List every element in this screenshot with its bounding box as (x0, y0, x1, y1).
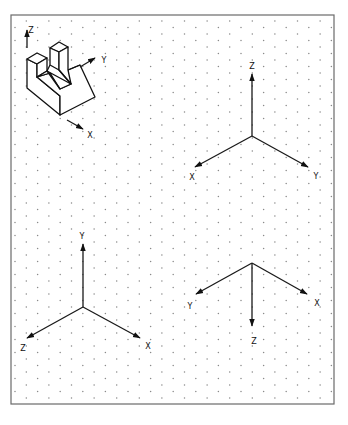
grid-dot (263, 196, 265, 198)
grid-dot (48, 150, 50, 152)
grid-dot (37, 274, 39, 276)
grid-dot (308, 352, 310, 354)
grid-dot (206, 228, 208, 230)
grid-dot (14, 183, 16, 185)
grid-dot (308, 365, 310, 367)
grid-dot (297, 293, 299, 295)
grid-dot (195, 274, 197, 276)
grid-dot (172, 261, 174, 263)
grid-dot (240, 196, 242, 198)
grid-dot (48, 384, 50, 386)
grid-dot (308, 131, 310, 133)
grid-dot (308, 378, 310, 380)
grid-dot (105, 40, 107, 42)
grid-dot (172, 300, 174, 302)
grid-dot (71, 371, 73, 373)
grid-dot (308, 144, 310, 146)
grid-dot (14, 66, 16, 68)
grid-dot (161, 306, 163, 308)
grid-dot (93, 345, 95, 347)
grid-dot (195, 66, 197, 68)
grid-dot (116, 384, 118, 386)
grid-dot (116, 202, 118, 204)
grid-dot (274, 46, 276, 48)
grid-dot (26, 163, 28, 165)
grid-dot (59, 222, 61, 224)
grid-dot (184, 228, 186, 230)
grid-dot (127, 157, 129, 159)
grid-dot (297, 111, 299, 113)
grid-dot (240, 183, 242, 185)
grid-dot (48, 33, 50, 35)
grid-dot (37, 170, 39, 172)
grid-dot (263, 248, 265, 250)
grid-dot (285, 391, 287, 393)
grid-dot (14, 157, 16, 159)
grid-dot (48, 280, 50, 282)
grid-dot (206, 85, 208, 87)
grid-dot (37, 391, 39, 393)
grid-dot (274, 293, 276, 295)
grid-dot (150, 131, 152, 133)
grid-dot (274, 189, 276, 191)
grid-dot (218, 144, 220, 146)
grid-dot (274, 345, 276, 347)
grid-dot (206, 332, 208, 334)
grid-dot (14, 196, 16, 198)
grid-dot (184, 111, 186, 113)
grid-dot (93, 228, 95, 230)
grid-dot (127, 352, 129, 354)
grid-dot (71, 215, 73, 217)
grid-dot (172, 339, 174, 341)
grid-dot (274, 306, 276, 308)
grid-dot (48, 267, 50, 269)
grid-dot (93, 189, 95, 191)
grid-dot (172, 326, 174, 328)
grid-dot (297, 150, 299, 152)
grid-dot (274, 228, 276, 230)
grid-dot (319, 202, 321, 204)
grid-dot (82, 365, 84, 367)
grid-dot (139, 163, 141, 165)
grid-dot (161, 215, 163, 217)
grid-dot (127, 105, 129, 107)
grid-dot (206, 293, 208, 295)
grid-dot (274, 215, 276, 217)
grid-dot (37, 27, 39, 29)
grid-dot (274, 33, 276, 35)
grid-dot (37, 352, 39, 354)
grid-dot (184, 267, 186, 269)
grid-dot (274, 254, 276, 256)
grid-dot (161, 358, 163, 360)
grid-dot (139, 85, 141, 87)
grid-dot (319, 98, 321, 100)
grid-dot (37, 313, 39, 315)
grid-dot (274, 332, 276, 334)
grid-dot (93, 163, 95, 165)
grid-dot (297, 384, 299, 386)
grid-dot (93, 72, 95, 74)
grid-dot (274, 72, 276, 74)
grid-dot (150, 391, 152, 393)
grid-dot (297, 98, 299, 100)
grid-dot (218, 352, 220, 354)
grid-dot (319, 241, 321, 243)
grid-dot (26, 319, 28, 321)
grid-dot (48, 189, 50, 191)
grid-dot (26, 150, 28, 152)
grid-dot (195, 92, 197, 94)
grid-dot (127, 235, 129, 237)
grid-dot (285, 300, 287, 302)
grid-dot (161, 293, 163, 295)
grid-dot (184, 124, 186, 126)
grid-dot (37, 365, 39, 367)
grid-dot (26, 345, 28, 347)
grid-dot (59, 274, 61, 276)
grid-dot (116, 85, 118, 87)
grid-dot (161, 137, 163, 139)
grid-dot (37, 235, 39, 237)
grid-dot (240, 40, 242, 42)
grid-dot (59, 248, 61, 250)
grid-dot (48, 20, 50, 22)
grid-dot (26, 280, 28, 282)
